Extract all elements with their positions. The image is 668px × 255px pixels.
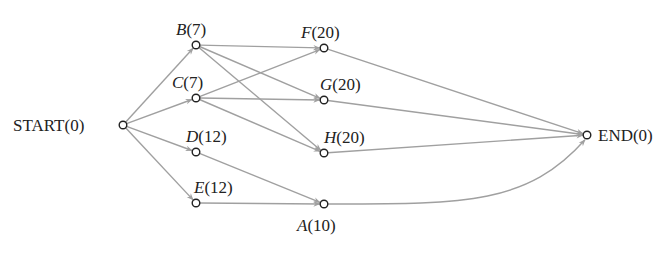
node-label-start: START(0)	[13, 116, 84, 135]
nodes-layer	[119, 41, 591, 208]
edge-e-to-a	[200, 203, 320, 204]
node-letter: E	[193, 178, 205, 197]
node-label-h: H(20)	[323, 128, 365, 147]
node-duration: (20)	[336, 128, 364, 147]
edge-f-to-end	[328, 49, 583, 133]
node-b	[192, 41, 200, 49]
node-label-g: G(20)	[320, 75, 361, 94]
node-duration: (0)	[64, 116, 84, 135]
node-e	[192, 199, 200, 207]
node-label-d: D(12)	[185, 127, 227, 146]
node-letter: C	[172, 73, 184, 92]
node-duration: (12)	[198, 127, 226, 146]
node-duration: (0)	[633, 126, 653, 145]
node-label-a: A(10)	[296, 216, 336, 235]
node-letter: G	[320, 75, 332, 94]
node-g	[320, 96, 328, 104]
edge-g-to-end	[328, 101, 583, 135]
node-duration: (7)	[183, 73, 203, 92]
node-letter: B	[176, 20, 187, 39]
node-duration: (20)	[311, 23, 339, 42]
edge-b-to-f	[200, 45, 320, 48]
node-start	[119, 121, 127, 129]
node-end	[583, 131, 591, 139]
edge-start-to-c	[127, 99, 192, 123]
node-letter: START	[13, 116, 65, 135]
node-duration: (7)	[186, 20, 206, 39]
node-label-b: B(7)	[176, 20, 206, 39]
edge-c-to-f	[200, 50, 320, 97]
node-f	[320, 44, 328, 52]
node-h	[320, 149, 328, 157]
node-letter: END	[598, 126, 633, 145]
node-duration: (10)	[307, 216, 335, 235]
edge-c-to-g	[200, 98, 320, 100]
node-label-f: F(20)	[300, 23, 340, 42]
labels-layer: START(0)B(7)C(7)D(12)E(12)F(20)G(20)H(20…	[13, 20, 653, 235]
node-label-e: E(12)	[193, 178, 233, 197]
node-label-c: C(7)	[172, 73, 203, 92]
node-label-end: END(0)	[598, 126, 653, 145]
node-letter: F	[300, 23, 312, 42]
activity-network-diagram: START(0)B(7)C(7)D(12)E(12)F(20)G(20)H(20…	[0, 0, 668, 255]
node-letter: D	[185, 127, 199, 146]
edge-h-to-end	[328, 135, 583, 152]
node-a	[320, 200, 328, 208]
node-c	[192, 94, 200, 102]
node-duration: (20)	[332, 75, 360, 94]
node-duration: (12)	[204, 178, 232, 197]
node-d	[192, 148, 200, 156]
node-letter: A	[296, 216, 308, 235]
